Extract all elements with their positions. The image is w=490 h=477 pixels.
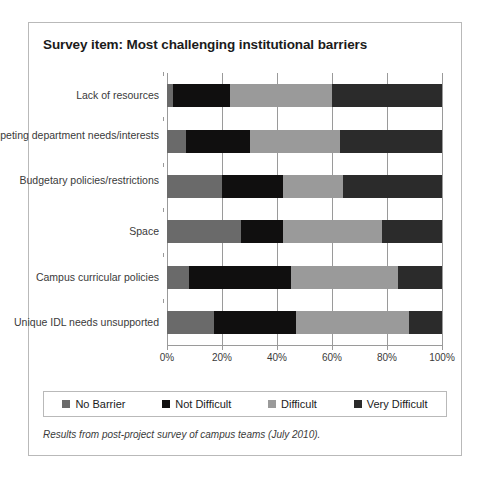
x-axis-tick [222, 345, 223, 350]
bar-segment[interactable] [167, 175, 222, 198]
x-axis-tick [167, 345, 168, 350]
y-axis-tick [163, 163, 164, 167]
category-label: Competing department needs/interests [0, 129, 159, 142]
y-axis-tick [163, 299, 164, 303]
y-axis-tick [163, 208, 164, 212]
y-axis-tick [163, 117, 164, 121]
bar-segment[interactable] [283, 175, 344, 198]
bar-row[interactable]: Campus curricular policies [167, 266, 442, 289]
bar-segment[interactable] [230, 84, 332, 107]
bar-segment[interactable] [382, 220, 443, 243]
bar-segment[interactable] [167, 311, 214, 334]
x-axis-tick [442, 345, 443, 350]
chart-legend: No BarrierNot DifficultDifficultVery Dif… [43, 391, 447, 417]
legend-item[interactable]: Difficult [268, 398, 317, 410]
legend-swatch-icon [62, 400, 70, 408]
bar-segment[interactable] [250, 130, 341, 153]
bar-segment[interactable] [186, 130, 249, 153]
bar-segment[interactable] [343, 175, 442, 198]
x-axis-tick-label: 20% [212, 352, 232, 363]
legend-swatch-icon [354, 400, 362, 408]
bar-segment[interactable] [189, 266, 291, 289]
bar-segment[interactable] [173, 84, 231, 107]
legend-item[interactable]: Not Difficult [162, 398, 231, 410]
bar-segment[interactable] [296, 311, 409, 334]
legend-swatch-icon [162, 400, 170, 408]
chart-figure: Survey item: Most challenging institutio… [28, 22, 462, 456]
bar-segment[interactable] [167, 130, 186, 153]
category-label: Lack of resources [0, 89, 159, 102]
gridline [442, 73, 443, 345]
legend-label: Very Difficult [367, 398, 428, 410]
bar-stack [167, 84, 442, 107]
x-axis-line [167, 345, 442, 346]
bar-segment[interactable] [291, 266, 398, 289]
bar-stack [167, 311, 442, 334]
x-axis-tick [277, 345, 278, 350]
legend-item[interactable]: Very Difficult [354, 398, 428, 410]
bar-stack [167, 175, 442, 198]
y-axis-tick [163, 72, 164, 76]
legend-item[interactable]: No Barrier [62, 398, 125, 410]
bar-stack [167, 220, 442, 243]
bar-row[interactable]: Budgetary policies/restrictions [167, 175, 442, 198]
x-axis-tick [387, 345, 388, 350]
bar-stack [167, 266, 442, 289]
legend-label: No Barrier [75, 398, 125, 410]
bar-segment[interactable] [167, 220, 241, 243]
bar-segment[interactable] [409, 311, 442, 334]
category-label: Budgetary policies/restrictions [0, 174, 159, 187]
legend-label: Difficult [281, 398, 317, 410]
bar-segment[interactable] [241, 220, 282, 243]
bar-segment[interactable] [167, 266, 189, 289]
bar-segment[interactable] [340, 130, 442, 153]
chart-footnote: Results from post-project survey of camp… [43, 429, 320, 440]
x-axis-tick-label: 100% [429, 352, 455, 363]
bar-row[interactable]: Competing department needs/interests [167, 130, 442, 153]
category-label: Space [0, 225, 159, 238]
bar-segment[interactable] [222, 175, 283, 198]
y-axis-tick [163, 253, 164, 257]
category-label: Unique IDL needs unsupported [0, 316, 159, 329]
chart-title: Survey item: Most challenging institutio… [43, 37, 367, 52]
bar-series-container: Lack of resourcesCompeting department ne… [167, 73, 442, 345]
bar-segment[interactable] [332, 84, 442, 107]
bar-segment[interactable] [398, 266, 442, 289]
bar-row[interactable]: Unique IDL needs unsupported [167, 311, 442, 334]
x-axis-tick-label: 80% [377, 352, 397, 363]
legend-swatch-icon [268, 400, 276, 408]
bar-segment[interactable] [214, 311, 297, 334]
x-axis-tick [332, 345, 333, 350]
x-axis-tick-label: 40% [267, 352, 287, 363]
x-axis-tick-label: 0% [160, 352, 174, 363]
plot-area: Lack of resourcesCompeting department ne… [167, 73, 442, 345]
bar-row[interactable]: Lack of resources [167, 84, 442, 107]
bar-segment[interactable] [283, 220, 382, 243]
category-label: Campus curricular policies [0, 271, 159, 284]
legend-label: Not Difficult [175, 398, 231, 410]
bar-row[interactable]: Space [167, 220, 442, 243]
bar-stack [167, 130, 442, 153]
x-axis-tick-label: 60% [322, 352, 342, 363]
